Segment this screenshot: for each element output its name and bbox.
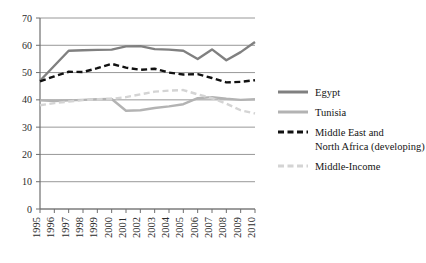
- y-axis-tick-label: 60: [22, 40, 32, 51]
- x-axis-tick-label: 2003: [146, 217, 157, 238]
- x-axis-tick-label: 1998: [74, 217, 85, 238]
- x-axis-tick-label: 2001: [117, 217, 128, 238]
- x-axis-tick-label: 1995: [31, 217, 42, 238]
- legend-label-0[interactable]: Egypt: [315, 87, 340, 98]
- series-line-1: [40, 97, 255, 111]
- y-axis-tick-label: 20: [22, 149, 32, 160]
- y-axis-tick-label: 40: [22, 94, 32, 105]
- x-axis-tick-label: 2004: [160, 216, 171, 238]
- legend-label-1[interactable]: Tunisia: [315, 107, 346, 118]
- line-chart: 0102030405060701995199619971998199920002…: [0, 0, 426, 263]
- x-axis-tick-label: 1997: [60, 217, 71, 238]
- x-axis-tick-label: 2006: [189, 217, 200, 238]
- x-axis-tick-label: 2008: [217, 217, 228, 238]
- y-axis-tick-label: 70: [22, 13, 32, 24]
- x-axis-tick-label: 2005: [174, 217, 185, 238]
- y-axis-tick-label: 30: [22, 122, 32, 133]
- series-line-0: [40, 42, 255, 81]
- y-axis-tick-label: 0: [27, 204, 32, 215]
- x-axis-tick-label: 1999: [88, 217, 99, 238]
- x-axis-tick-label: 2010: [246, 217, 257, 238]
- chart-figure: 0102030405060701995199619971998199920002…: [0, 0, 426, 263]
- x-axis-tick-label: 2007: [203, 217, 214, 238]
- legend-label-4[interactable]: Middle-Income: [315, 161, 381, 172]
- x-axis-tick-label: 2002: [131, 217, 142, 238]
- x-axis-tick-label: 1996: [45, 217, 56, 238]
- series-line-2: [40, 64, 255, 83]
- y-axis-tick-label: 10: [22, 176, 32, 187]
- y-axis-tick-label: 50: [22, 67, 32, 78]
- legend-label-3[interactable]: North Africa (developing): [315, 141, 425, 153]
- legend-label-2[interactable]: Middle East and: [315, 127, 385, 138]
- x-axis-tick-label: 2009: [232, 217, 243, 238]
- x-axis-tick-label: 2000: [103, 217, 114, 238]
